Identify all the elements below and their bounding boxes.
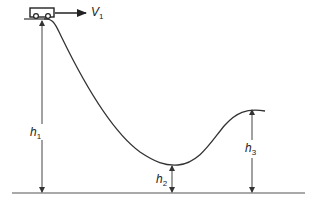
h2-label: h2 [156,173,167,188]
h1-label: h1 [30,126,41,141]
roller-coaster-diagram [0,0,318,199]
velocity-label: V1 [91,6,103,21]
track-curve [44,19,265,165]
cart-icon [30,8,54,18]
h3-label: h3 [245,142,256,157]
